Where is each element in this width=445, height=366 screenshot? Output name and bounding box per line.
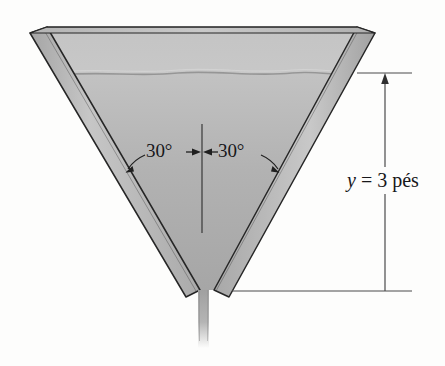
angle-left-label: 30° bbox=[146, 141, 172, 160]
top-rim bbox=[30, 27, 375, 33]
depth-equals: = bbox=[356, 169, 377, 191]
depth-symbol: y bbox=[347, 169, 356, 191]
discharge-stream bbox=[198, 290, 209, 348]
depth-value: 3 pés bbox=[377, 169, 419, 191]
depth-dimension-label: y = 3 pés bbox=[344, 168, 422, 193]
angle-right-label: 30° bbox=[218, 141, 244, 160]
v-notch-weir-figure: 30° 30° y = 3 pés bbox=[0, 0, 445, 366]
